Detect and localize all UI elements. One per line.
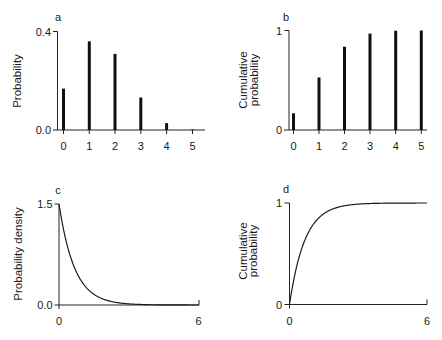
panel-label-d: d: [283, 183, 289, 195]
ytick-b-top: 1: [276, 25, 282, 37]
xtick-c-6: 6: [195, 315, 201, 327]
ylabel-b-line2: probability: [248, 54, 260, 107]
y-axis-d: [285, 203, 290, 305]
xtick-b-1: 1: [316, 140, 322, 152]
xtick-a-1: 1: [86, 140, 92, 152]
xtick-d-0: 0: [286, 315, 292, 327]
xticks-a: 012345: [60, 130, 195, 152]
panel-label-b: b: [283, 11, 289, 23]
density-curve: [59, 204, 199, 305]
ytick-a-top: 0.4: [36, 26, 51, 38]
panel-c: c Probability density 1.5 0.0 0 6: [12, 184, 202, 327]
y-axis-a: [53, 32, 58, 131]
ytick-c-bottom: 0.0: [37, 299, 52, 311]
panel-label-a: a: [55, 11, 62, 23]
panel-label-c: c: [55, 184, 61, 196]
xtick-a-5: 5: [189, 140, 195, 152]
y-axis-c: [55, 204, 60, 305]
panel-d: d Cumulative probability 1 0 0 6: [237, 183, 431, 327]
cumulative-curve: [290, 203, 428, 304]
panel-a: a Probability 0.4 0.0 012345: [11, 11, 205, 152]
bars-a: [64, 41, 193, 130]
x-axis-d: [285, 300, 428, 305]
xtick-a-0: 0: [60, 140, 66, 152]
xtick-c-0: 0: [56, 315, 62, 327]
xtick-b-5: 5: [418, 140, 424, 152]
ylabel-d-line2: probability: [247, 225, 259, 278]
xtick-a-4: 4: [164, 140, 170, 152]
xtick-b-0: 0: [290, 140, 296, 152]
xtick-a-3: 3: [138, 140, 144, 152]
xtick-a-2: 2: [112, 140, 118, 152]
xtick-b-4: 4: [393, 140, 399, 152]
ylabel-c: Probability density: [12, 207, 24, 301]
panel-b: b Cumulative probability 1 0 012345: [237, 11, 427, 152]
ylabel-a: Probability: [11, 54, 23, 108]
ytick-a-bottom: 0.0: [36, 124, 51, 136]
xtick-b-2: 2: [341, 140, 347, 152]
bars-b: [294, 31, 422, 131]
ytick-d-bottom: 0: [276, 299, 282, 311]
ytick-b-bottom: 0: [276, 124, 282, 136]
figure: a Probability 0.4 0.0 012345 b Cumulativ…: [0, 0, 442, 340]
ytick-c-top: 1.5: [37, 198, 52, 210]
xtick-d-6: 6: [424, 315, 430, 327]
y-axis-b: [285, 31, 290, 131]
ytick-d-top: 1: [276, 197, 282, 209]
xticks-b: 012345: [290, 130, 424, 152]
xtick-b-3: 3: [367, 140, 373, 152]
